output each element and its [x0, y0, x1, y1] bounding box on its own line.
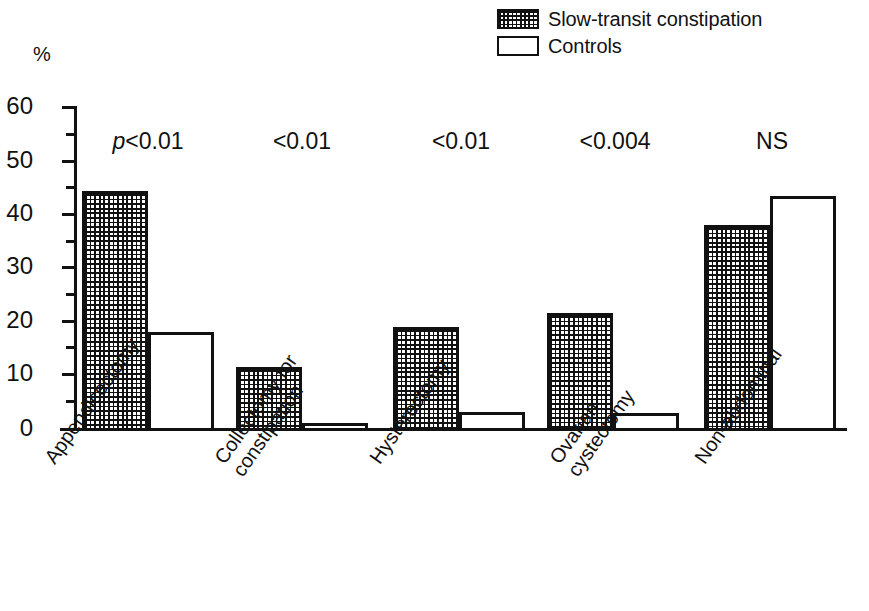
y-tick-label-10: 10 — [0, 361, 33, 385]
y-tick-minor-55c — [66, 133, 75, 136]
y-tick-label-60: 60 — [0, 94, 33, 118]
y-tick-minor-45 — [66, 186, 75, 189]
y-tick-label-30: 30 — [0, 254, 33, 278]
y-tick-label-20: 20 — [0, 308, 33, 332]
y-tick-minor-35 — [66, 240, 75, 243]
y-tick-minor-15 — [66, 346, 75, 349]
pvalue-collectomy: <0.01 — [273, 128, 331, 155]
bar-collectomy-controls — [302, 423, 368, 431]
y-tick-60 — [62, 106, 75, 109]
pvalue-appendicectomy: p<0.01 — [113, 128, 184, 155]
pvalue-appendicectomy-value: <0.01 — [125, 128, 183, 154]
y-tick-20 — [62, 320, 75, 323]
bar-chart: Slow-transit constipation Controls % 60 … — [0, 0, 869, 611]
pvalue-ovarian-cystectomy: <0.004 — [580, 128, 651, 155]
pvalue-hysterectomy: <0.01 — [432, 128, 490, 155]
y-tick-40 — [62, 213, 75, 216]
y-tick-label-40: 40 — [0, 201, 33, 225]
y-tick-50-main — [62, 160, 75, 163]
bar-hysterectomy-controls — [459, 412, 525, 431]
y-tick-minor-5 — [66, 400, 75, 403]
y-tick-label-0: 0 — [0, 416, 33, 440]
bar-non-abdominal-controls — [770, 196, 836, 431]
pvalue-italic-p: p — [113, 128, 126, 154]
y-tick-minor-25 — [66, 293, 75, 296]
y-tick-10 — [62, 373, 75, 376]
y-tick-30 — [62, 266, 75, 269]
bar-appendicectomy-controls — [148, 332, 214, 431]
pvalue-non-abdominal: NS — [756, 128, 788, 155]
y-tick-label-50: 50 — [0, 148, 33, 172]
plot-area: 60 50 40 30 20 10 0 — [0, 0, 869, 611]
